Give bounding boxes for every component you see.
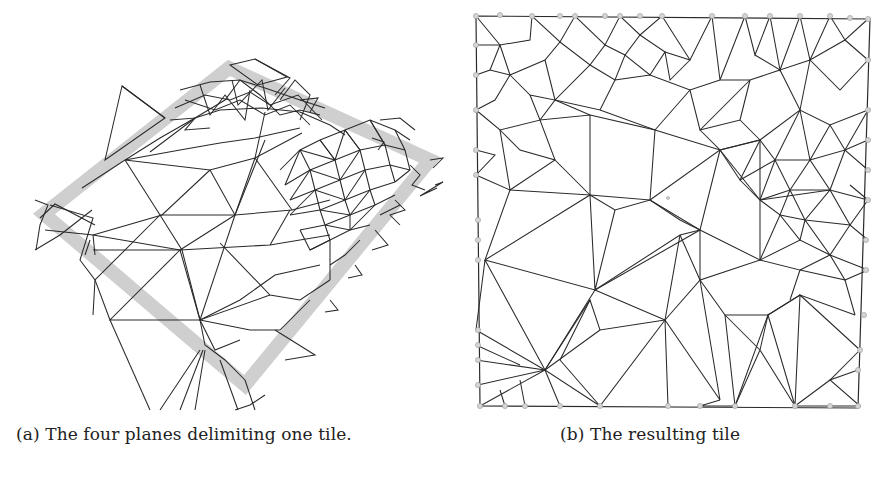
mesh-edges-b	[476, 16, 868, 406]
tile-border	[476, 16, 870, 408]
caption-a: (a) The four planes delimiting one tile.	[16, 424, 352, 444]
panel-a-planes-mesh	[0, 0, 460, 420]
resulting-tile-diagram	[460, 0, 892, 420]
planes-mesh-diagram	[0, 0, 460, 420]
boundary-nodes	[473, 12, 870, 408]
panel-b-resulting-tile	[460, 0, 892, 420]
mesh-edges-a	[35, 59, 443, 410]
delimiting-planes-band	[44, 68, 430, 385]
caption-b: (b) The resulting tile	[560, 424, 740, 444]
